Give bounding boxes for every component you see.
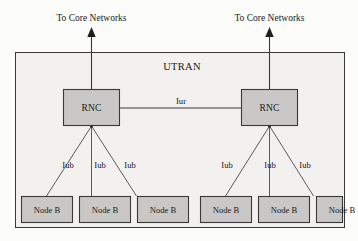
nodeb-label-right-1: Node B — [213, 205, 240, 215]
utran-architecture-diagram: To Core Networks To Core Networks UTRAN … — [0, 0, 358, 241]
iur-interface-label: Iur — [176, 96, 186, 106]
iub-label-left-3: Iub — [124, 160, 135, 170]
iub-label-left-1: Iub — [62, 160, 73, 170]
rnc-label-left: RNC — [81, 103, 101, 113]
nodeb-label-right-3: Node B — [329, 205, 356, 215]
iub-label-right-1: Iub — [221, 160, 232, 170]
nodeb-label-left-3: Node B — [150, 205, 177, 215]
iub-label-right-2: Iub — [264, 160, 275, 170]
nodeb-label-right-2: Node B — [271, 205, 298, 215]
core-networks-label-left: To Core Networks — [56, 13, 126, 23]
utran-title-label: UTRAN — [163, 61, 201, 72]
iub-label-right-3: Iub — [299, 160, 310, 170]
iub-label-left-2: Iub — [94, 160, 105, 170]
core-networks-label-right: To Core Networks — [234, 13, 304, 23]
nodeb-label-left-1: Node B — [34, 205, 61, 215]
core-arrowhead-right-icon — [265, 27, 273, 37]
nodeb-label-left-2: Node B — [92, 205, 119, 215]
core-arrowhead-left-icon — [87, 27, 95, 37]
rnc-label-right: RNC — [259, 103, 279, 113]
diagram-canvas: To Core Networks To Core Networks UTRAN … — [0, 0, 358, 241]
